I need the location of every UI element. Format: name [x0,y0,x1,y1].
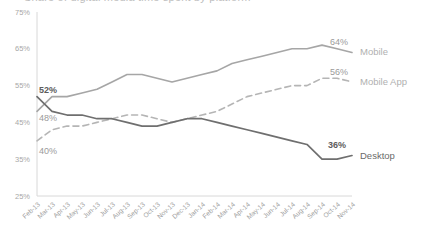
y-axis: 25%35%45%55%65%75% [15,8,37,201]
series-line-mobile [37,45,352,111]
series-name-desktop: Desktop [360,150,395,161]
y-axis-tick-label: 55% [15,81,30,90]
series-line-desktop [37,97,352,160]
series-name-labels: MobileMobile AppDesktop [360,46,407,160]
start-value-label-desktop: 52% [39,85,57,95]
y-axis-tick-label: 75% [15,8,30,17]
start-value-label-mobile-app: 40% [39,146,57,156]
series-name-mobile-app: Mobile App [360,76,407,87]
x-axis-tick-label: Jun-13 [81,200,101,219]
series-lines [37,45,352,159]
end-value-label-mobile-app: 56% [330,67,348,77]
y-axis-tick-label: 35% [15,155,30,164]
end-value-label-desktop: 36% [328,140,346,150]
series-name-mobile: Mobile [360,46,388,57]
y-axis-tick-label: 25% [15,192,30,201]
chart-container: Share of digital media time spent by pla… [0,0,433,252]
x-axis-tick-label: Jun-14 [261,200,281,219]
y-axis-tick-label: 45% [15,118,30,127]
start-value-label-mobile: 48% [39,113,57,123]
chart-plot-area: 25%35%45%55%65%75% Feb-13Mar-13Apr-13May… [0,0,433,252]
series-line-mobile-app [37,78,352,141]
y-axis-tick-label: 65% [15,44,30,53]
data-point-labels: 48%40%52%64%56%36% [39,37,348,155]
end-value-label-mobile: 64% [330,37,348,47]
x-axis: Feb-13Mar-13Apr-13May-13Jun-13Jul-13Aug-… [21,196,356,221]
